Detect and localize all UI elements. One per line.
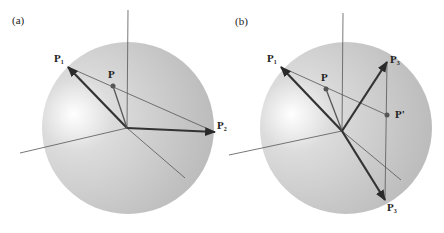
label-a-p2: P2 (217, 120, 227, 132)
label-b-p1: P1 (267, 53, 277, 65)
sphere-b (260, 42, 432, 214)
label-b-p3: P3 (390, 54, 400, 66)
label-a-p: P (108, 69, 115, 80)
point-pprime-marker (385, 113, 390, 118)
sphere-diagram (0, 0, 444, 233)
label-b-pprime: P' (395, 109, 405, 120)
panel-a-graphics (20, 10, 215, 214)
point-p-marker (111, 84, 116, 89)
label-b-p3b: P3 (387, 202, 397, 214)
label-a-p1: P1 (54, 53, 64, 65)
label-b-p: P (321, 72, 328, 83)
point-p-marker (324, 87, 329, 92)
